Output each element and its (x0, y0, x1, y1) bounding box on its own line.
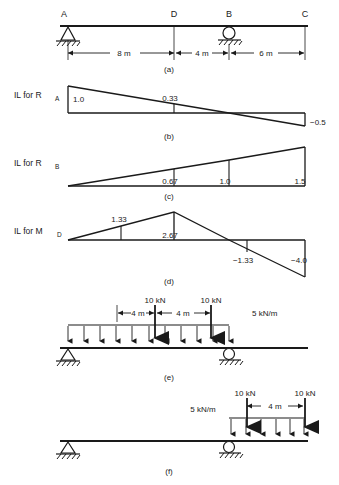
panel-caption-d: (d) (164, 277, 174, 286)
panel-caption-a: (a) (164, 65, 174, 74)
point-load-label-f-2: 10 kN (295, 389, 316, 398)
node-label-d: D (171, 9, 178, 19)
ordinate-value-c-d: 0.67 (162, 177, 178, 186)
distributed-load-arrows-e (68, 326, 229, 341)
dimension-label-ad: 8 m (117, 49, 131, 58)
panel-c-il-rb: IL for R B 0.67 1.0 1.5 (c) (14, 147, 306, 201)
ordinate-value-c-c: 1.5 (294, 177, 306, 186)
dimension-label-bc: 6 m (259, 49, 273, 58)
distributed-load-arrows-f (231, 419, 304, 434)
panel-d-label: IL for M (14, 226, 43, 236)
panel-caption-c: (c) (164, 192, 174, 201)
panel-b-label-subscript: A (55, 95, 60, 102)
distributed-load-label-e: 5 kN/m (252, 309, 278, 318)
panel-f-loading-case: 10 kN 10 kN 5 kN/m 4 m (56, 389, 316, 476)
point-load-label-f-1: 10 kN (235, 389, 256, 398)
support-pin-f (56, 442, 80, 459)
panel-d-label-subscript: D (57, 231, 62, 238)
ordinate-value-d-c: −4.0 (291, 256, 307, 265)
panel-b-il-ra: IL for R A 1.0 0.33 −0.5 (b) (14, 86, 326, 141)
panel-b-label: IL for R (14, 90, 42, 100)
node-label-b: B (226, 9, 232, 19)
panel-d-il-md: IL for M D 1.33 2.67 −1.33 −4.0 (d) (14, 212, 307, 286)
ordinate-value-d-4m: 1.33 (111, 215, 127, 224)
influence-line-b (68, 86, 305, 126)
ordinate-value-c-b: 1.0 (219, 177, 231, 186)
panel-c-label-subscript: B (55, 163, 59, 170)
engineering-figure: A D B C (0, 0, 339, 485)
influence-line-d (68, 212, 305, 277)
ordinate-value-d-14m: −1.33 (233, 256, 254, 265)
support-roller-e (219, 349, 243, 366)
dimension-label-db: 4 m (195, 49, 209, 58)
node-label-c: C (302, 9, 309, 19)
panel-caption-e: (e) (164, 373, 174, 382)
support-roller-f (219, 442, 243, 459)
panel-caption-f: (f) (165, 467, 173, 476)
ordinate-value-b-d: 0.33 (162, 94, 178, 103)
support-roller-b (218, 27, 242, 45)
panel-c-label: IL for R (14, 158, 42, 168)
ordinate-value-d-d: 2.67 (162, 231, 178, 240)
ordinate-value-b-a: 1.0 (73, 95, 85, 104)
panel-a-beam-geometry: A D B C (56, 9, 309, 74)
point-load-label-e-2: 10 kN (201, 296, 222, 305)
ordinate-value-b-c: −0.5 (310, 118, 326, 127)
dimension-label-e-1: 4 m (131, 309, 145, 318)
figure-canvas: A D B C (0, 0, 339, 485)
panel-caption-b: (b) (164, 132, 174, 141)
dimension-label-e-2: 4 m (176, 309, 190, 318)
influence-line-c (68, 147, 305, 186)
support-pin-e (56, 349, 80, 366)
point-load-label-e-1: 10 kN (145, 296, 166, 305)
node-label-a: A (61, 9, 67, 19)
dimension-label-f-1: 4 m (268, 402, 282, 411)
distributed-load-label-f: 5 kN/m (190, 405, 216, 414)
panel-e-loading-case: 10 kN 10 kN 5 kN/m 4 m 4 m (56, 296, 308, 382)
